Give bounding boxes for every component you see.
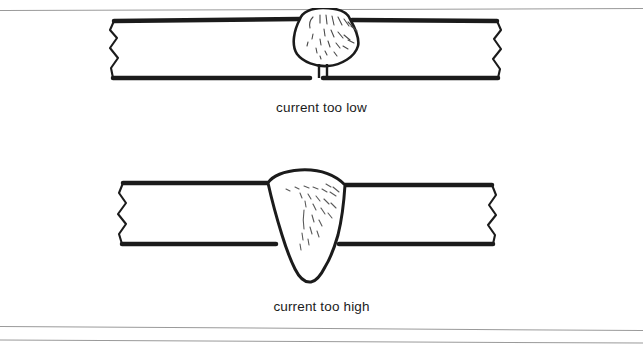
bottom-horizontal-rule-upper bbox=[0, 326, 643, 331]
caption-current-too-low: current too low bbox=[0, 100, 643, 115]
bottom-horizontal-rule-lower bbox=[0, 339, 643, 343]
figure-current-too-low bbox=[0, 8, 643, 100]
caption-current-too-high: current too high bbox=[0, 299, 643, 314]
scanned-diagram-page: current too low bbox=[0, 0, 643, 347]
figure-current-too-high bbox=[0, 165, 643, 295]
